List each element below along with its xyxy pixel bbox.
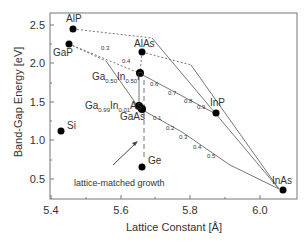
svg-text:0.4: 0.4 xyxy=(193,144,202,150)
svg-text:0.6: 0.6 xyxy=(150,81,159,87)
y-tick-label: 2.5 xyxy=(30,19,45,31)
svg-text:0.3: 0.3 xyxy=(101,45,110,51)
label-si: Si xyxy=(67,120,76,131)
label-inas: InAs xyxy=(272,175,292,186)
x-tick-label: 5.8 xyxy=(182,204,197,216)
label-gaas: GaAs xyxy=(120,111,145,122)
x-tick-label: 6.0 xyxy=(252,204,267,216)
y-tick-label: 1.0 xyxy=(30,134,45,146)
x-tick-label: 5.6 xyxy=(113,204,128,216)
point-inas xyxy=(280,187,287,194)
label-alp: AlP xyxy=(66,13,82,24)
svg-text:0.5: 0.5 xyxy=(207,153,216,159)
svg-text:0.7: 0.7 xyxy=(168,90,177,96)
label-alas: AlAs xyxy=(134,38,155,49)
y-tick-label: 1.5 xyxy=(30,96,45,108)
point-ge xyxy=(139,164,146,171)
lattice-matched-arrow xyxy=(113,141,138,165)
x-axis xyxy=(51,195,260,199)
point-alp xyxy=(70,26,77,33)
point-si xyxy=(58,128,65,135)
label-inp: InP xyxy=(210,97,225,108)
svg-text:0.1: 0.1 xyxy=(153,115,162,121)
point-alas xyxy=(139,49,146,56)
label-gap: GaP xyxy=(53,47,73,58)
y-tick-label: 0.5 xyxy=(30,173,45,185)
label-ge: Ge xyxy=(148,155,162,166)
label-gainp: Ga0.50In0.50P xyxy=(92,71,144,84)
svg-text:0.8: 0.8 xyxy=(184,98,193,104)
svg-text:0.4: 0.4 xyxy=(122,58,131,64)
x-axis-label: Lattice Constant [Å] xyxy=(126,221,222,233)
svg-text:0.9: 0.9 xyxy=(197,104,206,110)
y-axis-label: Band-Gap Energy [eV] xyxy=(12,47,24,158)
y-tick-label: 2.0 xyxy=(30,57,45,69)
svg-text:0.2: 0.2 xyxy=(166,125,175,131)
point-inp xyxy=(213,110,220,117)
annotation-lattice-matched: lattice-matched growth xyxy=(74,178,165,188)
band-gap-chart: 5.4 5.6 5.8 6.0 Lattice Constant [Å] 0.5… xyxy=(0,0,308,242)
x-tick-label: 5.4 xyxy=(43,204,58,216)
svg-text:0.3: 0.3 xyxy=(179,134,188,140)
